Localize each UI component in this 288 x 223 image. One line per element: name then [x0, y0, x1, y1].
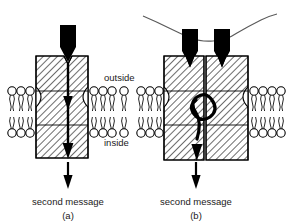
lipid-head-circle-icon [8, 87, 34, 95]
panel-letter-a: (a) [62, 210, 74, 221]
lipid-head-circle-icon [137, 129, 163, 137]
second-message-label-b: second message [160, 196, 232, 207]
outside-label: outside [104, 72, 135, 83]
receptor-protein-a [31, 56, 93, 158]
inside-label: inside [104, 137, 129, 148]
lipid-head-circle-icon [8, 129, 34, 137]
lipid-head-circle-icon [90, 87, 128, 95]
receptor-protein-b-right [206, 56, 253, 160]
panel-letter-b: (b) [190, 210, 202, 221]
figure-root: second message (a) outside inside [0, 0, 288, 223]
lipid-head-circle-icon [90, 129, 128, 137]
figure-canvas: second message (a) outside inside [0, 0, 288, 223]
second-message-label-a: second message [32, 196, 104, 207]
lipid-head-circle-icon [137, 87, 163, 95]
